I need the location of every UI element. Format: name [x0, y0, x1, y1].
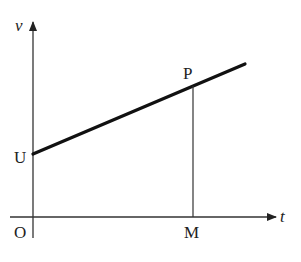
point-p-label: P	[183, 64, 192, 83]
vt-graph: v t O U P M	[0, 0, 301, 262]
y-axis-label: v	[15, 16, 23, 35]
x-axis-label: t	[280, 207, 286, 226]
origin-label: O	[14, 223, 26, 242]
point-m-label: M	[184, 223, 199, 242]
point-u-label: U	[14, 148, 26, 167]
velocity-line	[33, 64, 245, 154]
